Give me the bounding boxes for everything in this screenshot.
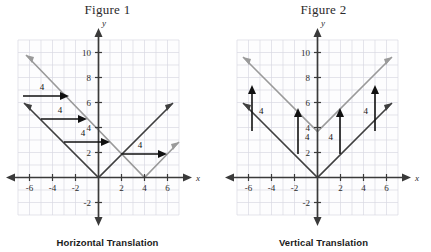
figure-1-svg: -6 -4 -2 2 4 6 10 8 6 4 2 -2 x y — [0, 18, 215, 226]
translation-arrow-label: 4 — [329, 132, 334, 142]
x-axis-arrow-left — [6, 174, 15, 182]
y-tick-label: 6 — [306, 98, 311, 108]
figure-2-plot: -6 -4 -2 2 4 6 10 8 6 4 2 -2 x y 4 — [216, 18, 431, 226]
figure-1-plot: -6 -4 -2 2 4 6 10 8 6 4 2 -2 x y — [0, 18, 215, 226]
y-tick-label: 10 — [301, 48, 311, 58]
y-axis-arrow-down — [95, 217, 103, 226]
y-axis-arrow-up — [314, 28, 322, 37]
y-tick-label: 8 — [87, 73, 92, 83]
translation-arrow-label: 4 — [138, 140, 143, 150]
x-tick-label: -6 — [26, 183, 34, 193]
y-axis-arrow-down — [314, 217, 322, 226]
x-axis-name: x — [195, 173, 200, 183]
x-axis-arrow-right — [402, 174, 411, 182]
x-axis-arrow-right — [183, 174, 192, 182]
x-tick-label: -2 — [72, 183, 80, 193]
figure-1-title: Figure 1 — [0, 2, 215, 18]
y-tick-label: 2 — [306, 148, 311, 158]
x-tick-label: 4 — [361, 183, 366, 193]
translation-arrow-label: 4 — [40, 82, 45, 92]
figure-2-svg: -6 -4 -2 2 4 6 10 8 6 4 2 -2 x y 4 — [216, 18, 431, 226]
y-tick-label: -2 — [84, 198, 92, 208]
figure-2-title: Figure 2 — [216, 2, 431, 18]
y-tick-label: -2 — [303, 198, 311, 208]
translation-arrow-label: 4 — [364, 106, 369, 116]
x-tick-label: 2 — [338, 183, 343, 193]
x-tick-label: 4 — [142, 183, 147, 193]
x-tick-label: -6 — [245, 183, 253, 193]
x-tick-label: 6 — [384, 183, 389, 193]
translation-arrow-label: 4 — [58, 105, 63, 115]
x-axis-arrow-left — [225, 174, 234, 182]
translation-arrow-label: 4 — [81, 128, 86, 138]
translation-arrow-label: 4 — [259, 106, 264, 116]
y-tick-label: 6 — [87, 98, 92, 108]
x-axis-name: x — [414, 173, 419, 183]
y-axis-name: y — [320, 18, 325, 28]
x-tick-label: 6 — [165, 183, 170, 193]
y-axis-arrow-up — [95, 28, 103, 37]
figure-1: Figure 1 — [0, 0, 215, 252]
y-tick-label: 4 — [87, 123, 92, 133]
figure-2-caption: Vertical Translation — [216, 237, 431, 248]
x-tick-label: -2 — [291, 183, 299, 193]
x-tick-label: -4 — [49, 183, 57, 193]
translation-arrow-label: 4 — [305, 132, 310, 142]
figure-1-caption: Horizontal Translation — [0, 237, 215, 248]
figure-pair-container: Figure 1 — [0, 0, 431, 252]
x-tick-label: -4 — [268, 183, 276, 193]
figure-2: Figure 2 — [216, 0, 431, 252]
y-tick-label: 2 — [87, 148, 92, 158]
y-tick-label: 10 — [82, 48, 92, 58]
x-tick-label: 2 — [119, 183, 124, 193]
y-axis-name: y — [101, 18, 106, 28]
y-tick-label: 8 — [306, 73, 311, 83]
